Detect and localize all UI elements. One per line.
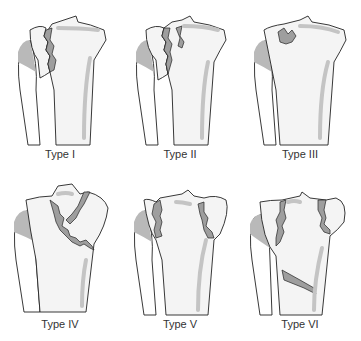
- panel-label-type-6: Type VI: [240, 318, 360, 330]
- panel-label-type-5: Type V: [120, 318, 240, 330]
- tibia-fracture-type-3-illustration: [240, 0, 360, 170]
- panel-type-3: Type III: [240, 0, 360, 170]
- panel-type-5: Type V: [120, 170, 240, 340]
- panel-label-type-1: Type I: [0, 148, 120, 160]
- tibia-fracture-type-6-illustration: [240, 170, 360, 340]
- panel-type-6: Type VI: [240, 170, 360, 340]
- panel-label-type-4: Type IV: [0, 318, 120, 330]
- tibia-fracture-type-4-illustration: [0, 170, 120, 340]
- panel-label-type-2: Type II: [120, 148, 240, 160]
- panel-type-1: Type I: [0, 0, 120, 170]
- panel-type-4: Type IV: [0, 170, 120, 340]
- tibia-fracture-type-2-illustration: [120, 0, 240, 170]
- tibia-fracture-type-1-illustration: [0, 0, 120, 170]
- panel-type-2: Type II: [120, 0, 240, 170]
- tibia-fracture-type-5-illustration: [120, 170, 240, 340]
- panel-label-type-3: Type III: [240, 148, 360, 160]
